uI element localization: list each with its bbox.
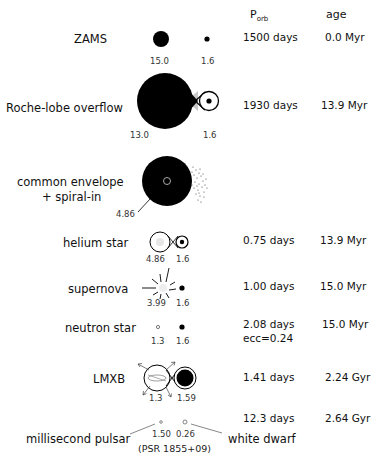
stage-label-common-envelope: common envelope bbox=[17, 175, 124, 189]
helium-star-system bbox=[150, 232, 188, 252]
mass-label: 1.6 bbox=[176, 336, 190, 346]
mass-label: 4.86 bbox=[146, 254, 165, 264]
porb-value: 12.3 days bbox=[243, 412, 295, 424]
stage-label-spiral-in: + spiral-in bbox=[42, 190, 101, 204]
mass-label: 3.99 bbox=[147, 298, 166, 308]
stage-label-neutron-star: neutron star bbox=[65, 321, 136, 335]
mass-label: 0.26 bbox=[176, 429, 195, 439]
common-envelope-system bbox=[138, 156, 208, 212]
mass-label: 1.59 bbox=[177, 393, 196, 403]
porb-column-header: Porb bbox=[250, 8, 268, 23]
porb-value: 1.00 days bbox=[243, 280, 295, 292]
supernova-companion-star bbox=[179, 285, 184, 290]
age-value: 2.64 Gyr bbox=[325, 412, 370, 424]
stage-label-zams: ZAMS bbox=[74, 32, 107, 46]
stage-label-supernova: supernova bbox=[68, 282, 128, 296]
zams-secondary-star bbox=[204, 36, 209, 41]
wd-pointer-line bbox=[191, 424, 222, 433]
rlof-system bbox=[137, 73, 219, 129]
mass-label: 1.6 bbox=[201, 56, 215, 66]
stage-label-millisecond-pulsar: millisecond pulsar bbox=[26, 432, 130, 446]
porb-value: 2.08 days bbox=[243, 318, 295, 330]
porb-value: 1500 days bbox=[243, 31, 298, 43]
age-value: 15.0 Myr bbox=[320, 280, 366, 292]
porb-value: 1930 days bbox=[243, 99, 298, 111]
stage-label-helium-star: helium star bbox=[63, 236, 128, 250]
zams-primary-star bbox=[153, 31, 169, 47]
neutron-star-companion bbox=[179, 324, 184, 329]
pulsar-designation: (PSR 1855+09) bbox=[138, 443, 211, 454]
age-column-header: age bbox=[326, 8, 347, 21]
porb-subscript: orb bbox=[257, 15, 269, 23]
porb-label: P bbox=[250, 8, 257, 21]
age-value: 15.0 Myr bbox=[322, 318, 368, 330]
mass-label: 4.86 bbox=[116, 209, 135, 219]
eccentricity-value: ecc=0.24 bbox=[243, 332, 293, 344]
neutron-star bbox=[156, 325, 159, 328]
mass-label: 1.6 bbox=[176, 254, 190, 264]
mass-label: 1.6 bbox=[176, 298, 190, 308]
age-value: 2.24 Gyr bbox=[325, 371, 370, 383]
mass-label: 1.50 bbox=[152, 429, 171, 439]
age-value: 0.0 Myr bbox=[325, 31, 365, 43]
age-value: 13.9 Myr bbox=[320, 234, 366, 246]
lmxb-system bbox=[138, 362, 196, 397]
white-dwarf-dot bbox=[183, 420, 187, 424]
mass-label: 1.3 bbox=[151, 336, 165, 346]
millisecond-pulsar-dot bbox=[160, 421, 163, 424]
age-value: 13.9 Myr bbox=[321, 99, 367, 111]
mass-label: 1.6 bbox=[203, 130, 217, 140]
stage-label-white-dwarf: white dwarf bbox=[228, 432, 296, 446]
mass-label: 13.0 bbox=[130, 130, 149, 140]
stage-label-lmxb: LMXB bbox=[93, 372, 125, 386]
supernova-burst bbox=[142, 268, 176, 299]
porb-value: 1.41 days bbox=[243, 371, 295, 383]
stage-label-roche-lobe-overflow: Roche-lobe overflow bbox=[6, 101, 123, 115]
mass-label: 15.0 bbox=[150, 56, 169, 66]
mass-label: 1.3 bbox=[149, 393, 163, 403]
porb-value: 0.75 days bbox=[243, 234, 295, 246]
